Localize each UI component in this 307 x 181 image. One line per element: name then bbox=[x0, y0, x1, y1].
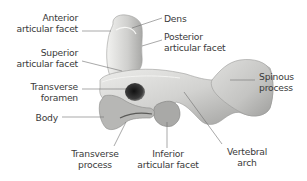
label-line: Posterior bbox=[164, 31, 226, 42]
label-line: Body bbox=[10, 112, 58, 123]
label-line: articular facet bbox=[164, 42, 226, 53]
label-line: Vertebral bbox=[214, 146, 280, 157]
dens-shape bbox=[107, 15, 143, 76]
label-anterior-articular-facet: Anterior articular facet bbox=[10, 12, 78, 34]
label-line: Transverse bbox=[10, 81, 78, 92]
label-vertebral-arch: Vertebral arch bbox=[214, 146, 280, 168]
label-line: Superior bbox=[10, 47, 78, 58]
label-line: Transverse bbox=[60, 148, 130, 159]
label-posterior-articular-facet: Posterior articular facet bbox=[164, 31, 226, 53]
label-line: Inferior bbox=[130, 148, 206, 159]
label-line: Spinous bbox=[259, 71, 294, 82]
label-transverse-foramen: Transverse foramen bbox=[10, 81, 78, 103]
label-line: articular facet bbox=[10, 58, 78, 69]
label-line: process bbox=[60, 159, 130, 170]
label-body: Body bbox=[10, 112, 58, 123]
label-line: Dens bbox=[164, 13, 187, 24]
label-line: articular facet bbox=[10, 23, 78, 34]
label-line: foramen bbox=[10, 92, 78, 103]
label-inferior-articular-facet: Inferior articular facet bbox=[130, 148, 206, 170]
label-line: Anterior bbox=[10, 12, 78, 23]
label-line: process bbox=[259, 82, 294, 93]
label-line: articular facet bbox=[130, 159, 206, 170]
anatomy-figure: Anterior articular facet Dens Posterior … bbox=[0, 0, 307, 181]
transverse-foramen-shape bbox=[125, 83, 145, 101]
label-superior-articular-facet: Superior articular facet bbox=[10, 47, 78, 69]
label-spinous-process: Spinous process bbox=[259, 71, 294, 93]
label-dens: Dens bbox=[164, 13, 187, 24]
label-transverse-process: Transverse process bbox=[60, 148, 130, 170]
label-line: arch bbox=[214, 157, 280, 168]
